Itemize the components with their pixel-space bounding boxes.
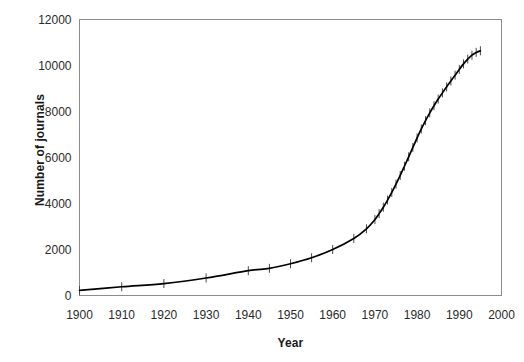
chart-container: Number of journals 020004000600080001000…	[0, 0, 524, 362]
plot-frame	[80, 20, 502, 296]
plot-area	[0, 0, 524, 362]
x-axis-title: Year	[79, 335, 502, 351]
